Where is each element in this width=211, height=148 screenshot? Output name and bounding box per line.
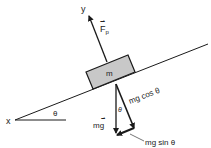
normal-force-label: Fp bbox=[100, 24, 110, 35]
vector-arrow-fp: ⇀ bbox=[100, 19, 105, 25]
mg-sin-label: mg sin θ bbox=[145, 138, 176, 147]
mg-sin-leader-line bbox=[130, 134, 144, 141]
mg-cos-label: mg cos θ bbox=[127, 86, 161, 106]
vector-arrow-mg: ⇀ bbox=[101, 115, 105, 121]
mass-label: m bbox=[106, 69, 113, 78]
x-axis-label: x bbox=[6, 116, 11, 126]
y-axis-label: y bbox=[81, 4, 86, 14]
incline-angle-label: θ bbox=[53, 109, 58, 118]
diagram-svg: x θ y Fp ⇀ m mg cos θ θ mg ⇀ mg sin θ bbox=[0, 0, 211, 148]
weight-label: mg bbox=[93, 121, 104, 130]
mg-sin-arrow bbox=[117, 128, 134, 135]
inclined-plane-diagram: x θ y Fp ⇀ m mg cos θ θ mg ⇀ mg sin θ bbox=[0, 0, 211, 148]
weight-theta-label: θ bbox=[118, 106, 122, 113]
normal-force-subscript: p bbox=[106, 29, 110, 35]
